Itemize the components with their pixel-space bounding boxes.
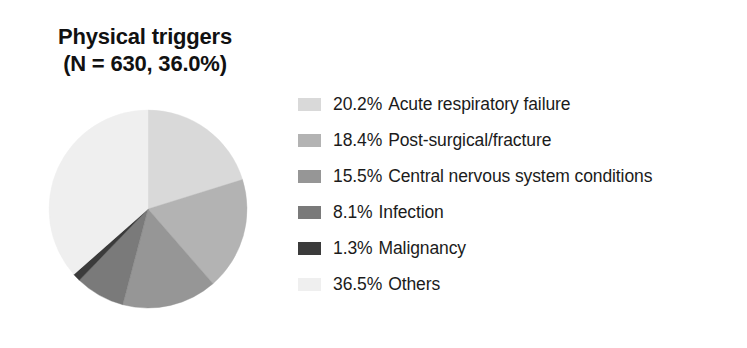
legend-item-percent: 15.5%	[333, 166, 382, 186]
legend-item-percent: 18.4%	[333, 130, 382, 150]
legend-item-percent: 20.2%	[333, 94, 382, 114]
chart-title-line-2: (N = 630, 36.0%)	[0, 51, 290, 78]
legend-color-swatch	[298, 98, 321, 111]
legend-item: 18.4%Post-surgical/fracture	[298, 122, 738, 158]
chart-legend: 20.2%Acute respiratory failure18.4%Post-…	[298, 86, 738, 302]
legend-item: 8.1%Infection	[298, 194, 738, 230]
page-title: Physical triggers (N = 630, 36.0%)	[0, 24, 290, 78]
legend-item-percent: 1.3%	[333, 238, 373, 258]
legend-item-percent: 36.5%	[333, 274, 382, 294]
legend-item-text: Post-surgical/fracture	[388, 130, 551, 150]
pie-chart	[48, 109, 248, 309]
legend-item-text: Malignancy	[379, 238, 467, 258]
legend-item-text: Others	[388, 274, 440, 294]
legend-item-label: 18.4%Post-surgical/fracture	[333, 130, 551, 151]
pie-chart-figure: Physical triggers (N = 630, 36.0%) 20.2%…	[0, 0, 747, 348]
legend-item: 36.5%Others	[298, 266, 738, 302]
legend-color-swatch	[298, 134, 321, 147]
legend-item: 20.2%Acute respiratory failure	[298, 86, 738, 122]
legend-color-swatch	[298, 278, 321, 291]
legend-item-label: 8.1%Infection	[333, 202, 444, 223]
pie-chart-svg	[48, 109, 248, 309]
legend-item-label: 15.5%Central nervous system conditions	[333, 166, 652, 187]
legend-item-text: Infection	[379, 202, 444, 222]
legend-color-swatch	[298, 206, 321, 219]
legend-item: 1.3%Malignancy	[298, 230, 738, 266]
legend-color-swatch	[298, 170, 321, 183]
legend-item: 15.5%Central nervous system conditions	[298, 158, 738, 194]
legend-item-text: Central nervous system conditions	[388, 166, 652, 186]
chart-title-line-1: Physical triggers	[0, 24, 290, 51]
legend-item-text: Acute respiratory failure	[388, 94, 570, 114]
legend-item-label: 1.3%Malignancy	[333, 238, 466, 259]
legend-item-percent: 8.1%	[333, 202, 373, 222]
pie-slice-group	[49, 110, 247, 308]
legend-item-label: 20.2%Acute respiratory failure	[333, 94, 570, 115]
legend-color-swatch	[298, 242, 321, 255]
legend-item-label: 36.5%Others	[333, 274, 440, 295]
